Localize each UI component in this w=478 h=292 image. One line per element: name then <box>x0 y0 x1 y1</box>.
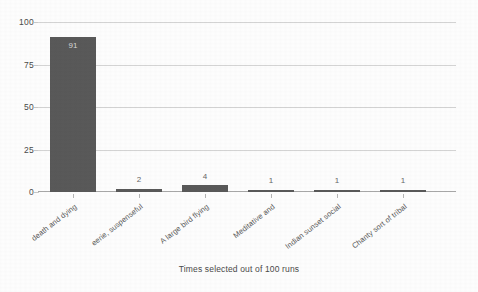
bar-a-large-bird-flying[interactable] <box>182 185 228 192</box>
y-tick-dash-0 <box>34 192 39 193</box>
x-tick-mark-5 <box>337 194 338 198</box>
bar-value-4: 1 <box>269 176 273 185</box>
bar-value-1: 91 <box>69 41 78 50</box>
x-label-slot-3: A large bird flying <box>172 194 238 256</box>
bar-slot-4: 1 <box>238 22 304 192</box>
y-tick-label-50: 50 <box>0 102 34 112</box>
x-tick-mark-1 <box>73 194 74 198</box>
bar-eerie-suspenseful[interactable] <box>116 189 162 192</box>
x-label-death-and-dying: death and dying <box>30 202 79 243</box>
y-tick-label-0: 0 <box>0 187 34 197</box>
bar-value-5: 1 <box>335 176 339 185</box>
x-axis-title: Times selected out of 100 runs <box>0 264 478 274</box>
x-label-meditative-and: Meditative and <box>231 202 276 240</box>
x-label-slot-2: eerie, suspenseful <box>106 194 172 256</box>
bar-chart-figure: 100 75 50 25 0 91 2 4 <box>0 0 478 292</box>
bars-layer: 91 2 4 1 1 1 <box>38 22 456 192</box>
x-tick-mark-2 <box>139 194 140 198</box>
x-tick-mark-6 <box>403 194 404 198</box>
y-axis-ticks: 100 75 50 25 0 <box>0 22 34 192</box>
bar-death-and-dying[interactable] <box>50 37 96 192</box>
bar-chanty-sort-of-tribal[interactable] <box>380 190 426 192</box>
bar-slot-6: 1 <box>370 22 436 192</box>
x-axis-labels: death and dying eerie, suspenseful A lar… <box>38 194 456 256</box>
y-tick-label-75: 75 <box>0 60 34 70</box>
bar-slot-5: 1 <box>304 22 370 192</box>
bar-slot-1: 91 <box>40 22 106 192</box>
bar-value-3: 4 <box>203 172 207 181</box>
bar-indian-sunset-social[interactable] <box>314 190 360 192</box>
bar-value-6: 1 <box>401 176 405 185</box>
y-tick-label-25: 25 <box>0 145 34 155</box>
bar-slot-3: 4 <box>172 22 238 192</box>
x-tick-mark-4 <box>271 194 272 198</box>
bar-slot-2: 2 <box>106 22 172 192</box>
bar-value-2: 2 <box>137 175 141 184</box>
bar-meditative-and[interactable] <box>248 190 294 192</box>
x-tick-mark-3 <box>205 194 206 198</box>
y-tick-label-100: 100 <box>0 17 34 27</box>
x-label-slot-6: Chanty sort of tribal <box>370 194 436 256</box>
